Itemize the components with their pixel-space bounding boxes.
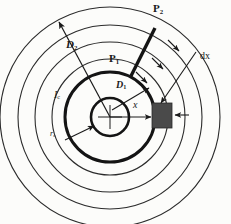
arc-arrow-1 (168, 40, 179, 51)
wave-front-diagram: D2 P1 P2 D1 Ic rc x dx (0, 0, 231, 224)
label-rc: rc (50, 130, 55, 139)
label-p1: P1 (109, 53, 119, 65)
dx-shaded-element (152, 103, 172, 128)
label-d1: D1 (116, 80, 126, 91)
label-d2: D2 (66, 39, 77, 51)
label-p2: P2 (153, 3, 163, 15)
diagram-canvas (0, 0, 231, 224)
dx-pointer-arrow (161, 52, 196, 103)
label-ic: Ic (54, 90, 60, 101)
label-dx: dx (200, 51, 210, 61)
label-x: x (133, 100, 137, 110)
